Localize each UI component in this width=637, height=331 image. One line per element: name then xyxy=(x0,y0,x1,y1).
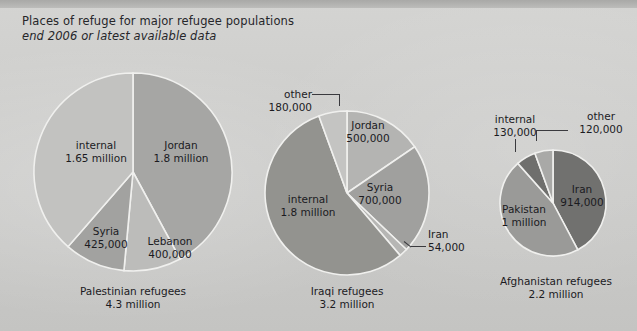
leader-other-iraqi-horizontal xyxy=(312,94,340,95)
caption-line-2: 4.3 million xyxy=(53,298,213,311)
leader-other-iraqi-vertical xyxy=(339,94,340,106)
caption-line-2: 3.2 million xyxy=(277,298,417,311)
pie-chart-palestinian: internal 1.65 million Jordan 1.8 million… xyxy=(30,69,236,275)
pie-slices-afghanistan xyxy=(500,150,606,256)
pie-slices-palestinian xyxy=(34,73,232,271)
caption-line-1: Afghanistan refugees xyxy=(481,275,631,288)
pie-chart-afghanistan: Iran 914,000 Pakistan 1 million xyxy=(499,149,607,257)
caption-iraqi: Iraqi refugees 3.2 million xyxy=(277,285,417,311)
infographic-page: Places of refuge for major refugee popul… xyxy=(0,0,637,331)
top-band xyxy=(0,0,637,8)
caption-afghanistan: Afghanistan refugees 2.2 million xyxy=(481,275,631,301)
pie-svg-palestinian xyxy=(30,69,236,275)
title-block: Places of refuge for major refugee popul… xyxy=(22,14,442,44)
page-subtitle: end 2006 or latest available data xyxy=(22,29,442,44)
leader-other-afghanistan-vertical xyxy=(536,130,537,141)
page-title: Places of refuge for major refugee popul… xyxy=(22,14,442,29)
caption-line-2: 2.2 million xyxy=(481,288,631,301)
leader-iran-iraqi-horizontal xyxy=(411,246,426,247)
caption-line-1: Palestinian refugees xyxy=(53,285,213,298)
leader-other-afghanistan-horizontal xyxy=(536,130,568,131)
pie-slices-iraqi xyxy=(265,111,429,275)
pie-svg-iraqi xyxy=(263,109,431,277)
leader-internal-afghanistan-vertical xyxy=(515,139,516,152)
pie-chart-iraqi: Jordan 500,000 Syria 700,000 internal 1.… xyxy=(263,109,431,277)
pie-svg-afghanistan xyxy=(499,149,607,257)
caption-palestinian: Palestinian refugees 4.3 million xyxy=(53,285,213,311)
caption-line-1: Iraqi refugees xyxy=(277,285,417,298)
